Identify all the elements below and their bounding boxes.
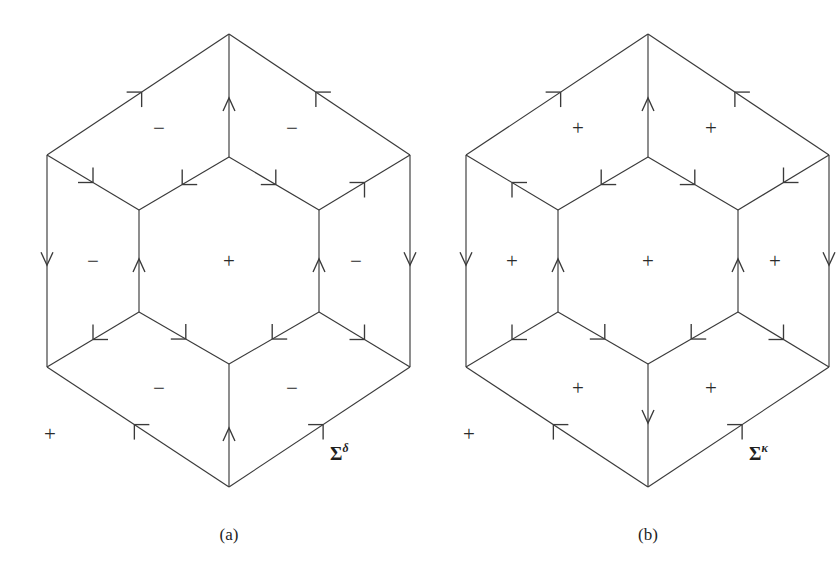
sigma-superscript-a: δ <box>342 441 348 455</box>
sign-face-right: + <box>769 249 781 273</box>
sign-face-outer: + <box>44 422 56 446</box>
edge-inner-top-right <box>229 157 319 210</box>
sign-face-left: − <box>87 249 99 273</box>
hexagonal-lattice-svg-a: −−−+−−−+Σδ(a) <box>0 0 419 586</box>
sign-face-upper-left: + <box>572 116 584 140</box>
sigma-label-a: Σδ <box>330 441 349 464</box>
panel-caption-b: (b) <box>638 525 658 544</box>
edge-outer-bottom-left <box>47 367 229 487</box>
sign-face-right: − <box>350 249 362 273</box>
sigma-base-a: Σ <box>330 443 342 464</box>
edge-inner-bottom-right <box>229 312 319 364</box>
edge-inner-top-left <box>558 157 648 210</box>
edge-inner-top-left <box>139 157 229 210</box>
edge-outer-top-left <box>47 34 229 155</box>
sigma-label-group-b: Σκ <box>749 441 768 464</box>
sign-face-center: + <box>642 249 654 273</box>
edge-outer-top-left <box>466 34 648 155</box>
sigma-superscript-b: κ <box>761 441 768 455</box>
edge-outer-bottom-right <box>229 367 410 487</box>
sign-face-lower-left: + <box>572 376 584 400</box>
edge-outer-top-right <box>229 34 410 155</box>
edge-inner-bottom-left <box>558 312 648 364</box>
sign-face-center: + <box>223 249 235 273</box>
sigma-base-b: Σ <box>749 443 761 464</box>
figure-root: −−−+−−−+Σδ(a)++++++++Σκ(b) <box>0 0 838 586</box>
sign-face-lower-right: + <box>705 376 717 400</box>
edge-outer-bottom-left <box>466 367 648 487</box>
sign-face-left: + <box>506 249 518 273</box>
sign-face-upper-right: + <box>705 116 717 140</box>
panel-caption-a: (a) <box>220 525 239 544</box>
sigma-label-b: Σκ <box>749 441 768 464</box>
edge-outer-top-right <box>648 34 829 155</box>
diagram-panel-a: −−−+−−−+Σδ(a) <box>0 0 419 586</box>
diagram-panel-b: ++++++++Σκ(b) <box>419 0 838 586</box>
edge-inner-top-right <box>648 157 738 210</box>
edge-inner-bottom-left <box>139 312 229 364</box>
sign-face-outer: + <box>463 422 475 446</box>
edge-inner-bottom-right <box>648 312 738 364</box>
sign-face-lower-left: − <box>153 376 165 400</box>
sign-face-upper-right: − <box>286 116 298 140</box>
hexagonal-lattice-svg-b: ++++++++Σκ(b) <box>419 0 838 586</box>
sigma-label-group-a: Σδ <box>330 441 349 464</box>
sign-face-upper-left: − <box>153 116 165 140</box>
sign-face-lower-right: − <box>286 376 298 400</box>
edge-outer-bottom-right <box>648 367 829 487</box>
